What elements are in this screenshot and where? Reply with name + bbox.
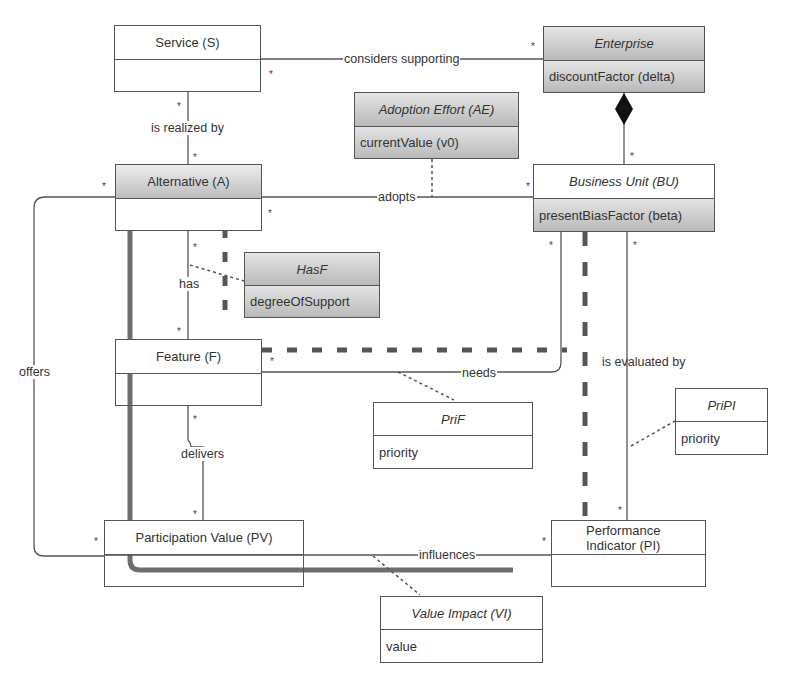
class-pripi[interactable]: PriPI priority (675, 388, 768, 455)
multiplicity-alternative-offers: * (102, 182, 106, 192)
multiplicity-feature-has: * (177, 327, 181, 337)
label-adopts: adopts (377, 190, 417, 204)
multiplicity-alternative-adopts: * (268, 209, 272, 219)
class-service-name: Service (S) (115, 26, 260, 60)
class-prif-attributes: priority (374, 436, 532, 468)
multiplicity-alternative-realized: * (193, 153, 197, 163)
class-adoption-effort-attributes: currentValue (v0) (355, 127, 518, 158)
class-value-impact-name: Value Impact (VI) (381, 597, 542, 630)
multiplicity-bu-adopts: * (526, 182, 530, 192)
multiplicity-pi-influences: * (542, 537, 546, 547)
class-value-impact-attributes: value (381, 630, 542, 662)
label-influences: influences (418, 548, 476, 562)
class-hasf-attributes: degreeOfSupport (245, 286, 379, 317)
class-feature[interactable]: Feature (F) (115, 339, 262, 406)
label-is-evaluated-by: is evaluated by (601, 355, 686, 369)
class-hasf[interactable]: HasF degreeOfSupport (244, 252, 380, 318)
multiplicity-feature-delivers: * (193, 415, 197, 425)
class-adoption-effort[interactable]: Adoption Effort (AE) currentValue (v0) (354, 92, 519, 159)
multiplicity-feature-needs: * (270, 357, 274, 367)
class-pripi-name: PriPI (676, 389, 767, 422)
class-enterprise-name: Enterprise (544, 27, 704, 61)
class-feature-attributes (116, 374, 261, 405)
class-business-unit-attributes: presentBiasFactor (beta) (534, 199, 714, 231)
class-feature-name: Feature (F) (116, 340, 261, 374)
class-participation-value-attributes (105, 555, 303, 586)
multiplicity-bu-composition: * (630, 152, 634, 162)
class-performance-indicator[interactable]: Performance Indicator (PI) (551, 520, 706, 587)
class-service-attributes (115, 60, 260, 91)
label-considers-supporting: considers supporting (343, 52, 460, 66)
class-prif-name: PriF (374, 403, 532, 436)
class-participation-value-name: Participation Value (PV) (105, 521, 303, 555)
label-needs: needs (461, 366, 497, 380)
multiplicity-service-considers: * (269, 70, 273, 80)
label-has: has (178, 277, 200, 291)
label-is-realized-by: is realized by (150, 121, 225, 135)
class-business-unit-name: Business Unit (BU) (534, 165, 714, 199)
class-pripi-attributes: priority (676, 422, 767, 454)
class-adoption-effort-name: Adoption Effort (AE) (355, 93, 518, 127)
multiplicity-bu-evaluated: * (633, 241, 637, 251)
multiplicity-alternative-has: * (193, 243, 197, 253)
multiplicity-pv-delivers: * (193, 510, 197, 520)
class-service[interactable]: Service (S) (114, 25, 261, 92)
class-participation-value[interactable]: Participation Value (PV) (104, 520, 304, 587)
class-value-impact[interactable]: Value Impact (VI) value (380, 596, 543, 663)
multiplicity-pv-offers: * (94, 537, 98, 547)
class-performance-indicator-attributes (552, 555, 705, 586)
class-hasf-name: HasF (245, 253, 379, 286)
multiplicity-bu-needs: * (549, 241, 553, 251)
class-prif[interactable]: PriF priority (373, 402, 533, 469)
class-business-unit[interactable]: Business Unit (BU) presentBiasFactor (be… (533, 164, 715, 232)
class-alternative-name: Alternative (A) (116, 165, 261, 199)
multiplicity-service-realized: * (177, 102, 181, 112)
class-performance-indicator-name: Performance Indicator (PI) (552, 521, 705, 555)
class-alternative[interactable]: Alternative (A) (115, 164, 262, 231)
class-alternative-attributes (116, 199, 261, 230)
class-enterprise-attributes: discountFactor (delta) (544, 61, 704, 92)
class-enterprise[interactable]: Enterprise discountFactor (delta) (543, 26, 705, 93)
label-delivers: delivers (180, 447, 225, 461)
multiplicity-pi-evaluated: * (618, 506, 622, 516)
multiplicity-enterprise-considers: * (531, 42, 535, 52)
label-offers: offers (18, 365, 51, 379)
